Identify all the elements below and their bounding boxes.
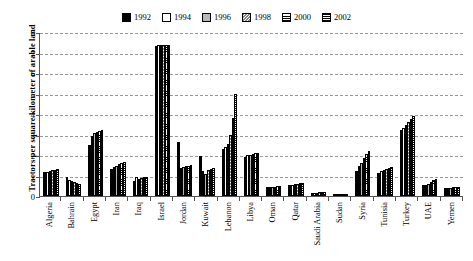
bar-group — [352, 33, 374, 196]
x-axis-label: Syria — [358, 202, 366, 220]
bar — [301, 183, 304, 196]
x-label-cell: Israel — [151, 200, 173, 258]
y-tick-label: 8 — [22, 29, 35, 37]
bar-group — [40, 33, 62, 196]
x-axis-label: UAE — [425, 202, 433, 219]
x-label-cell: Egypt — [84, 200, 106, 258]
bar — [368, 151, 371, 196]
bar — [190, 165, 193, 196]
legend-label-2002: 2002 — [334, 13, 351, 22]
bar-group — [263, 33, 285, 196]
legend-label-1996: 1996 — [214, 13, 231, 22]
bar — [412, 116, 415, 196]
x-label-cell: Jordan — [173, 200, 195, 258]
x-label-cell: Iran — [106, 200, 128, 258]
legend-item-2000: 2000 — [282, 13, 311, 22]
bar-group — [285, 33, 307, 196]
bar — [145, 177, 148, 196]
bar — [101, 130, 104, 196]
legend-item-1992: 1992 — [122, 13, 151, 22]
legend-item-1994: 1994 — [162, 13, 191, 22]
bar — [390, 167, 393, 196]
bar-group — [174, 33, 196, 196]
x-axis-label: Iraq — [135, 202, 143, 215]
x-label-cell: Syria — [351, 200, 373, 258]
bar-group — [62, 33, 84, 196]
x-label-cell: Kuwait — [195, 200, 217, 258]
bar-group — [240, 33, 262, 196]
legend-swatch-icon-1992 — [122, 13, 131, 22]
legend-label-1994: 1994 — [174, 13, 191, 22]
y-tick-label: 5 — [22, 91, 35, 99]
x-axis-label: Sudan — [336, 202, 344, 223]
bar — [323, 192, 326, 196]
y-tick-label: 7 — [22, 50, 35, 58]
y-tick-label: 4 — [22, 111, 35, 119]
bar-group — [441, 33, 463, 196]
x-label-cell: Oman — [262, 200, 284, 258]
x-axis-label: Algeria — [46, 202, 54, 227]
x-axis-label: Jordan — [180, 202, 188, 224]
x-label-cell: Saudi Arabia — [307, 200, 329, 258]
legend-label-1992: 1992 — [134, 13, 151, 22]
plot-area: 012345678 — [39, 33, 463, 197]
x-axis-label: Iran — [113, 202, 121, 215]
bar — [56, 169, 59, 196]
legend-swatch-icon-1996 — [202, 13, 211, 22]
legend-swatch-icon-1994 — [162, 13, 171, 22]
x-axis-label: Kuwait — [202, 202, 210, 227]
bar-group — [329, 33, 351, 196]
bar — [346, 194, 349, 196]
x-axis-label: Egypt — [91, 202, 99, 222]
y-tick-label: 2 — [22, 152, 35, 160]
x-label-cell: Qatar — [284, 200, 306, 258]
x-axis-label: Saudi Arabia — [314, 202, 322, 246]
bar-group — [374, 33, 396, 196]
bar-group — [107, 33, 129, 196]
bar-group — [307, 33, 329, 196]
legend-item-2002: 2002 — [322, 13, 351, 22]
legend-item-1996: 1996 — [202, 13, 231, 22]
x-axis-label: Qatar — [291, 202, 299, 221]
y-tick-label: 6 — [22, 70, 35, 78]
x-label-cell: UAE — [418, 200, 440, 258]
x-axis-label: Oman — [269, 202, 277, 222]
bar — [257, 153, 260, 196]
bar-group — [218, 33, 240, 196]
bar — [78, 184, 81, 196]
legend-swatch-icon-2002 — [322, 13, 331, 22]
bar — [212, 168, 215, 196]
bar — [435, 179, 438, 196]
x-label-cell: Yemen — [441, 200, 463, 258]
legend-label-2000: 2000 — [294, 13, 311, 22]
x-axis-label: Bahrain — [68, 202, 76, 229]
x-axis-label: Lebanon — [224, 202, 232, 231]
bar-group — [196, 33, 218, 196]
bar-chart: 1992 1994 1996 1998 2000 2002 Tractors p… — [0, 0, 473, 261]
x-label-cell: Turkey — [396, 200, 418, 258]
bar — [457, 187, 460, 196]
bar-groups — [40, 33, 463, 196]
x-label-cell: Tunisia — [374, 200, 396, 258]
bar — [234, 94, 237, 197]
x-label-cell: Lebanon — [218, 200, 240, 258]
x-axis-label: Tunisia — [381, 202, 389, 227]
bar — [279, 186, 282, 196]
x-label-cell: Sudan — [329, 200, 351, 258]
x-label-cell: Bahrain — [61, 200, 83, 258]
x-axis-labels: AlgeriaBahrainEgyptIranIraqIsraelJordanK… — [39, 200, 463, 258]
x-label-cell: Libya — [240, 200, 262, 258]
x-axis-label: Israel — [158, 202, 166, 221]
bar — [123, 162, 126, 196]
x-label-cell: Algeria — [39, 200, 61, 258]
y-tick-label: 0 — [22, 193, 35, 201]
bar-group — [396, 33, 418, 196]
x-axis-label: Turkey — [403, 202, 411, 226]
bar-group — [151, 33, 173, 196]
legend-swatch-icon-1998 — [242, 13, 251, 22]
y-tick-label: 1 — [22, 173, 35, 181]
bar — [168, 45, 171, 196]
legend-label-1998: 1998 — [254, 13, 271, 22]
chart-legend: 1992 1994 1996 1998 2000 2002 — [0, 11, 473, 23]
bar-group — [129, 33, 151, 196]
